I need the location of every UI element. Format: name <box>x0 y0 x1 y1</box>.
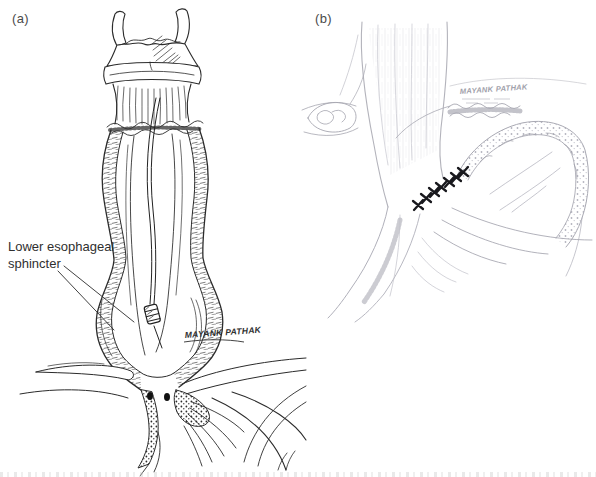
vessel-sketch <box>302 64 366 135</box>
signature-panel-b: MAYANK PATHAK <box>460 82 529 103</box>
stomach-folds-drawing <box>184 386 306 470</box>
larynx-cartilage-drawing <box>104 9 202 84</box>
cropped-caption-strip <box>0 472 596 477</box>
signature-a-text: MAYANK PATHAK <box>184 325 262 340</box>
esophagus-wall-drawing <box>96 128 222 390</box>
stomach-curve-sketch <box>458 121 589 276</box>
manometry-catheter-drawing <box>144 98 162 348</box>
panel-b-illustration: MAYANK PATHAK <box>300 0 596 477</box>
gastroesophageal-junction-drawing <box>138 390 209 476</box>
diaphragm-drawing <box>20 358 306 398</box>
panel-a-illustration: MAYANK PATHAK <box>0 0 310 477</box>
suture-x-marks <box>413 167 468 210</box>
figure-two-panel-medical-illustration: (a) (b) Lower esophageal sphincter <box>0 0 596 477</box>
signature-b-text: MAYANK PATHAK <box>460 82 529 96</box>
signature-panel-a: MAYANK PATHAK <box>184 325 262 342</box>
catheter-device <box>144 304 161 325</box>
lower-esophagus-sketch <box>328 207 468 322</box>
